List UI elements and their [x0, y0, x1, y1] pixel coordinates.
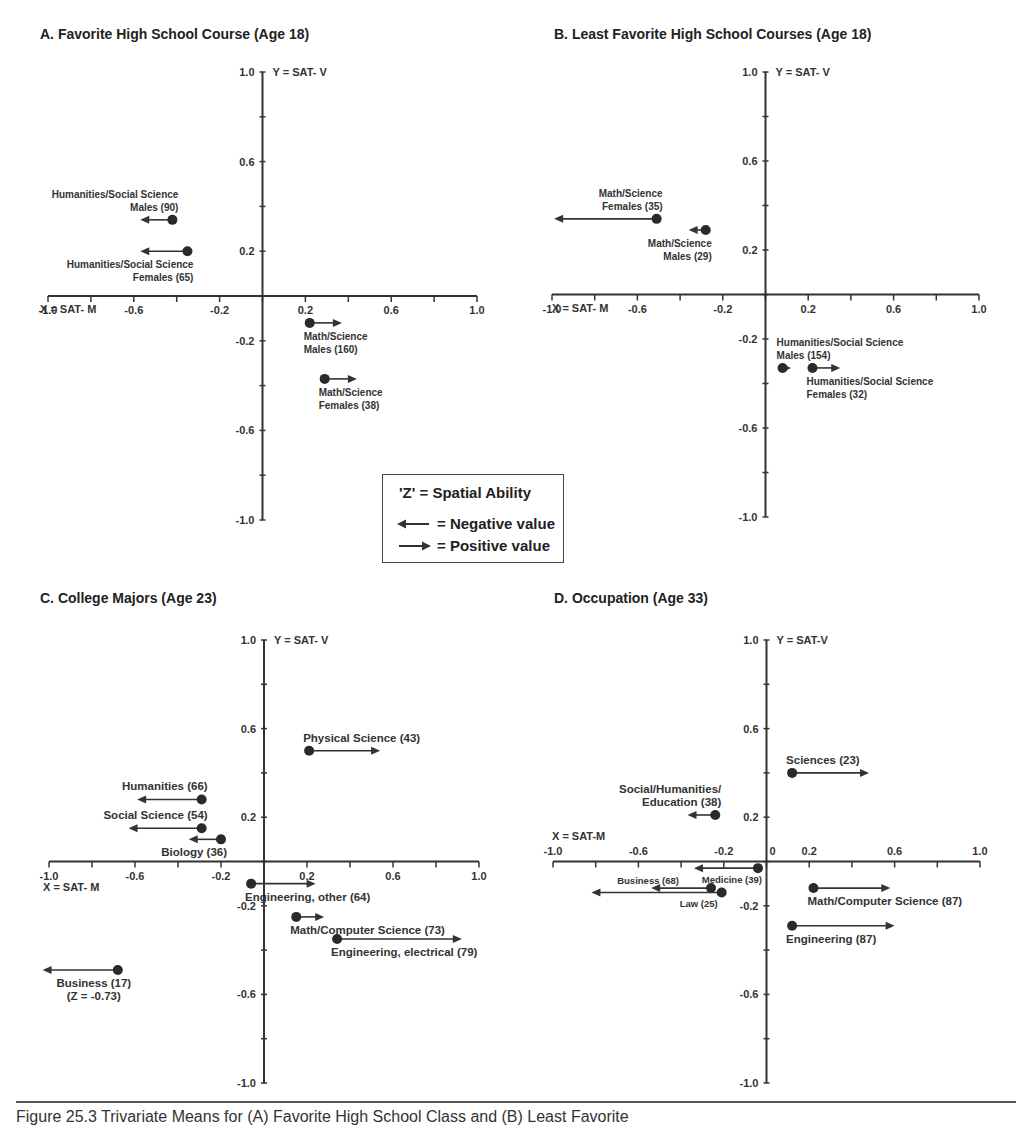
point-marker — [701, 225, 711, 235]
arrow-right-icon — [881, 884, 890, 892]
point-marker — [717, 888, 727, 898]
point-label: (Z = -0.73) — [67, 990, 121, 1002]
data-point: Medicine (39) — [694, 863, 763, 885]
data-point: Social/Humanities/Education (38) — [619, 783, 722, 820]
x-tick-label: -0.6 — [628, 303, 647, 315]
point-marker — [706, 883, 716, 893]
x-axis-label: X = SAT- M — [552, 302, 608, 314]
x-tick-label: -1.0 — [40, 870, 59, 882]
legend-positive: = Positive value — [397, 537, 550, 554]
point-marker — [320, 374, 330, 384]
arrow-right-icon — [333, 319, 342, 327]
arrow-left-icon — [137, 795, 146, 803]
data-point: Math/ScienceFemales (38) — [319, 374, 383, 411]
legend-positive-label: = Positive value — [437, 537, 550, 554]
point-label: Humanities/Social Science — [52, 189, 179, 200]
caption-divider — [16, 1101, 1016, 1103]
point-marker — [113, 965, 123, 975]
data-point: Humanities (66) — [122, 780, 208, 804]
x-axis-label: X = SAT- M — [43, 881, 99, 893]
point-label: Math/Computer Science (87) — [807, 895, 962, 907]
point-label: Engineering, other (64) — [245, 891, 370, 903]
y-tick-label: 1.0 — [239, 66, 254, 78]
x-tick-label: 0.6 — [887, 845, 902, 857]
y-tick-label: 0.2 — [239, 245, 254, 257]
arrow-right-icon — [371, 747, 380, 755]
panel-a: -1.0-0.6-0.20.20.61.01.00.60.2-0.2-0.6-1… — [39, 66, 485, 526]
x-tick-label: 1.0 — [971, 303, 986, 315]
figure-caption: Figure 25.3 Trivariate Means for (A) Fav… — [16, 1108, 629, 1126]
x-axis-label: X = SAT-M — [552, 830, 605, 842]
data-point: Math/Computer Science (87) — [807, 883, 962, 907]
y-tick-label: 0.6 — [241, 723, 256, 735]
point-marker — [304, 746, 314, 756]
point-label: Law (25) — [680, 898, 718, 909]
point-label: Humanities (66) — [122, 780, 208, 792]
y-tick-label: -1.0 — [740, 1077, 759, 1089]
point-label: Math/Science — [648, 238, 712, 249]
point-label: Engineering, electrical (79) — [331, 946, 478, 958]
point-label: Females (38) — [319, 400, 380, 411]
legend-title: 'Z' = Spatial Ability — [399, 484, 531, 501]
x-tick-label: 0 — [769, 845, 775, 857]
data-point: Engineering (87) — [786, 921, 894, 945]
point-label: Humanities/Social Science — [67, 259, 194, 270]
point-marker — [197, 794, 207, 804]
point-label: Biology (36) — [161, 846, 227, 858]
y-axis-label: Y = SAT- V — [776, 66, 831, 78]
point-label: Males (154) — [777, 350, 831, 361]
data-point: Humanities/Social ScienceMales (154) — [777, 337, 904, 373]
y-tick-label: -1.0 — [236, 514, 255, 526]
point-label: Math/Science — [599, 188, 663, 199]
point-marker — [753, 863, 763, 873]
point-marker — [246, 879, 256, 889]
point-label: Math/Science — [319, 387, 383, 398]
data-point: Humanities/Social ScienceMales (90) — [52, 189, 179, 225]
y-tick-label: -1.0 — [739, 511, 758, 523]
x-tick-label: -0.6 — [124, 304, 143, 316]
x-tick-label: 0.2 — [299, 870, 314, 882]
y-tick-label: -0.2 — [739, 333, 758, 345]
arrow-right-icon — [831, 364, 840, 372]
x-tick-label: 1.0 — [469, 304, 484, 316]
arrow-right-icon — [315, 913, 324, 921]
y-tick-label: -0.2 — [740, 900, 759, 912]
data-point: Math/ScienceFemales (35) — [554, 188, 663, 224]
arrow-left-icon — [140, 216, 149, 224]
data-point: Humanities/Social ScienceFemales (65) — [67, 246, 194, 283]
point-marker — [787, 921, 797, 931]
point-label: Males (29) — [663, 251, 711, 262]
data-point: Sciences (23) — [786, 754, 869, 778]
point-marker — [305, 318, 315, 328]
y-tick-label: 0.6 — [742, 155, 757, 167]
x-tick-label: -0.2 — [714, 845, 733, 857]
x-tick-label: -0.2 — [210, 304, 229, 316]
point-marker — [807, 363, 817, 373]
point-marker — [182, 246, 192, 256]
point-label: Business (17) — [56, 977, 131, 989]
legend-negative: = Negative value — [397, 515, 555, 532]
data-point: Physical Science (43) — [303, 732, 420, 756]
arrow-right-icon — [860, 769, 869, 777]
point-marker — [710, 810, 720, 820]
y-tick-label: -0.2 — [236, 335, 255, 347]
data-point: Business (17)(Z = -0.73) — [43, 965, 132, 1002]
x-tick-label: 0.2 — [802, 845, 817, 857]
arrow-left-icon — [397, 518, 431, 530]
y-tick-label: 0.2 — [241, 811, 256, 823]
point-label: Sciences (23) — [786, 754, 860, 766]
x-tick-label: 0.2 — [801, 303, 816, 315]
arrow-left-icon — [43, 966, 52, 974]
data-point: Engineering, electrical (79) — [331, 934, 478, 958]
x-tick-label: 0.6 — [886, 303, 901, 315]
x-axis-label: X = SAT- M — [40, 303, 96, 315]
x-tick-label: 0.2 — [298, 304, 313, 316]
data-point: Biology (36) — [161, 834, 227, 858]
x-tick-label: 0.6 — [384, 304, 399, 316]
y-axis-label: Y = SAT- V — [273, 66, 328, 78]
x-tick-label: 1.0 — [972, 845, 987, 857]
x-tick-label: -0.6 — [126, 870, 145, 882]
x-tick-label: 1.0 — [471, 870, 486, 882]
point-label: Social Science (54) — [103, 809, 207, 821]
panel-d: -1.0-0.6-0.200.20.61.01.00.60.2-0.2-0.6-… — [544, 634, 988, 1089]
